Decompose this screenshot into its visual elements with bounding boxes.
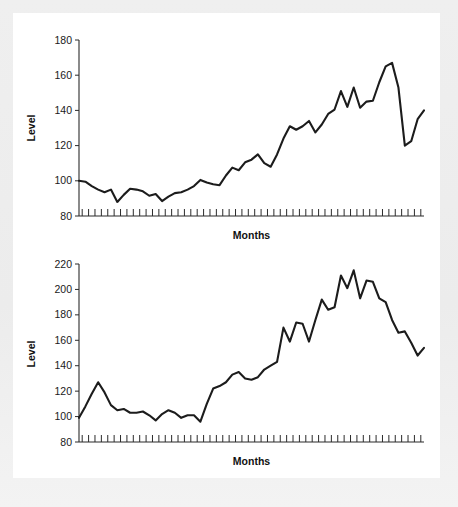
y-tick-label: 160 — [54, 69, 72, 81]
y-tick-label: 100 — [54, 174, 72, 186]
data-series-line — [79, 63, 424, 202]
chart-top-container: 80100120140160180LevelMonths — [13, 18, 440, 243]
y-axis-title: Level — [25, 114, 37, 141]
page-root: 80100120140160180LevelMonths 80100120140… — [0, 0, 458, 507]
y-tick-label: 140 — [54, 104, 72, 116]
data-series-line — [79, 270, 424, 421]
y-axis-title: Level — [25, 340, 37, 367]
y-tick-label: 160 — [54, 334, 72, 346]
y-tick-label: 120 — [54, 139, 72, 151]
y-tick-label: 140 — [54, 359, 72, 371]
y-tick-label: 180 — [54, 34, 72, 46]
y-tick-label: 220 — [54, 258, 72, 270]
x-axis-title: Months — [233, 455, 270, 467]
y-tick-label: 80 — [60, 436, 72, 448]
chart-top-svg: 80100120140160180LevelMonths — [13, 18, 440, 243]
chart-panel: 80100120140160180LevelMonths 80100120140… — [13, 13, 440, 478]
y-tick-label: 100 — [54, 410, 72, 422]
chart-bottom-svg: 80100120140160180200220LevelMonths — [13, 244, 440, 474]
y-tick-label: 200 — [54, 283, 72, 295]
chart-bottom-container: 80100120140160180200220LevelMonths — [13, 244, 440, 474]
y-tick-label: 120 — [54, 385, 72, 397]
y-tick-label: 180 — [54, 308, 72, 320]
y-tick-label: 80 — [60, 210, 72, 222]
x-axis-title: Months — [233, 229, 270, 241]
